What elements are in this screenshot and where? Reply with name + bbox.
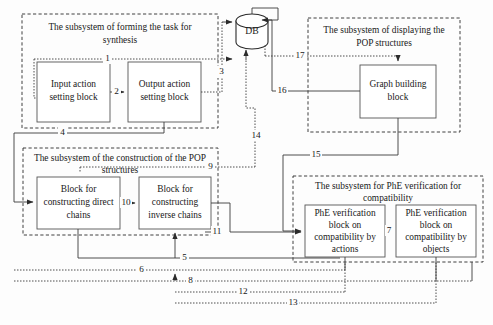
- subsystem-displaying-title-l2: POP structures: [356, 38, 412, 48]
- connection-label-10: 10: [121, 197, 131, 207]
- connection-label-16: 16: [277, 85, 287, 95]
- connection-label-2: 2: [114, 86, 119, 96]
- block-diagram: The subsystem of forming the task for sy…: [0, 0, 493, 325]
- connection-label-13: 13: [288, 297, 298, 307]
- connection-5-line: [78, 229, 340, 258]
- connection-15-to-phe: [283, 190, 301, 231]
- block-inverse-chains-label-l1: Block for: [157, 184, 194, 194]
- connection-14-line: [246, 60, 255, 167]
- block-phe-objects-label-l4: objects: [423, 244, 450, 254]
- connection-label-1: 1: [105, 53, 110, 63]
- connection-label-8: 8: [188, 275, 193, 285]
- connection-label-7: 7: [387, 225, 392, 235]
- diagram-canvas: The subsystem of forming the task for sy…: [0, 0, 493, 325]
- block-input-action-label-l1: Input action: [51, 79, 96, 89]
- block-phe-objects-label-l1: PhE verification: [405, 208, 466, 218]
- block-phe-actions-label-l2: block on: [329, 220, 362, 230]
- subsystem-construction-title-l1: The subsystem of the construction of the…: [34, 153, 206, 163]
- block-input-action-label-l2: setting block: [49, 92, 97, 102]
- connection-3-line: [201, 22, 222, 92]
- connection-label-4: 4: [60, 127, 65, 137]
- connection-label-9: 9: [208, 161, 213, 171]
- block-phe-objects-label-l2: block on: [420, 220, 453, 230]
- block-phe-actions-label-l4: actions: [332, 244, 359, 254]
- subsystem-phe-title-l2: compatibility: [363, 193, 413, 203]
- block-direct-chains-label-l2: constructing direct: [43, 197, 113, 207]
- subsystem-forming-title-line2: synthesis: [103, 35, 138, 45]
- connection-label-17: 17: [295, 50, 305, 60]
- connection-label-12: 12: [238, 286, 248, 296]
- block-phe-objects-label-l3: compatibility by: [405, 232, 467, 242]
- connection-15-line: [283, 118, 398, 190]
- block-direct-chains-label-l1: Block for: [61, 184, 98, 194]
- subsystem-phe-title-l1: The subsystem for PhE verification for: [315, 181, 462, 191]
- block-graph-building-label-l2: block: [388, 92, 409, 102]
- connection-16-line: [272, 30, 360, 91]
- block-inverse-chains-label-l3: inverse chains: [148, 210, 202, 220]
- connection-label-15: 15: [311, 149, 321, 159]
- subsystem-forming-title-line1: The subsystem of forming the task for: [48, 22, 192, 32]
- database-label: DB: [245, 25, 258, 36]
- block-output-action-label-l2: setting block: [140, 92, 188, 102]
- connection-label-5: 5: [182, 252, 187, 262]
- block-phe-actions-label-l3: compatibility by: [314, 232, 376, 242]
- connection-11-line: [211, 203, 301, 232]
- block-graph-building-label-l1: Graph building: [369, 79, 426, 89]
- block-phe-actions-label-l1: PhE verification: [314, 208, 375, 218]
- block-inverse-chains-label-l2: constructing: [152, 197, 199, 207]
- subsystem-displaying-title-l1: The subsystem of displaying the: [323, 25, 444, 35]
- connection-label-14: 14: [251, 130, 261, 140]
- connection-label-11: 11: [213, 226, 222, 236]
- connection-label-3: 3: [219, 66, 224, 76]
- block-output-action-label-l1: Output action: [139, 79, 191, 89]
- connection-label-6: 6: [139, 264, 144, 274]
- block-direct-chains-label-l3: chains: [67, 210, 91, 220]
